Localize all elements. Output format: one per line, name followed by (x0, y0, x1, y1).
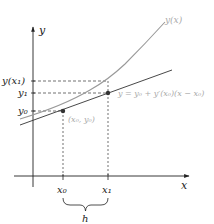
label-point: (x₀, y₀) (68, 115, 95, 124)
label-y0: y₀ (17, 105, 28, 116)
h-brace (63, 198, 108, 211)
label-x1: x₁ (102, 184, 112, 195)
x-axis-label: x (181, 179, 188, 192)
y-axis-label: y (38, 24, 46, 37)
label-x0: x₀ (57, 184, 67, 195)
label-curve: y(x) (164, 15, 183, 25)
point-x0-y0 (61, 109, 65, 113)
euler-method-diagram: y x y(x₁) y₁ y₀ x₀ x₁ y(x) y = y₀ + y′(x… (0, 0, 214, 224)
point-x1-y1 (106, 91, 110, 95)
label-h: h (82, 213, 88, 224)
label-yx1: y(x₁) (1, 75, 25, 86)
label-tangent: y = y₀ + y′(x₀)(x − x₀) (117, 89, 204, 98)
label-y1: y₁ (17, 87, 28, 98)
